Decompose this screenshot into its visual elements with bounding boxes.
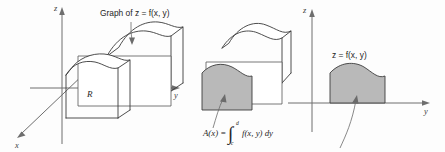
integral-upper-limit: d (236, 120, 239, 126)
left-z-axis-label: z (53, 4, 58, 13)
right-curve-label: z = f(x, y) (332, 50, 367, 60)
region-label: R (86, 89, 93, 99)
panel-left-group: Graph of z = f(x, y) z y x R (14, 4, 183, 150)
left-x-axis-label: x (14, 141, 19, 150)
integral-lower-limit: c (231, 140, 234, 146)
panel-right-group: z y z = f(x, y) (288, 6, 430, 148)
area-formula: A(x) = ∫ d c f(x, y) dy (202, 120, 273, 146)
area-formula-lhs: A(x) = (202, 128, 226, 138)
right-y-axis-label: y (423, 107, 428, 116)
left-y-axis-label: y (173, 91, 178, 100)
right-cross-section (330, 63, 385, 103)
panel-middle-group: A(x) = ∫ d c f(x, y) dy (202, 23, 291, 146)
left-z-axis (59, 7, 65, 144)
surface-callout-label: Graph of z = f(x, y) (100, 8, 170, 18)
figure-canvas: Graph of z = f(x, y) z y x R (0, 0, 445, 152)
right-z-axis-label: z (302, 6, 307, 15)
integrand: f(x, y) dy (242, 128, 273, 138)
left-x-axis (17, 72, 86, 138)
figure-container: Graph of z = f(x, y) z y x R (0, 0, 445, 152)
right-z-axis (309, 9, 315, 132)
